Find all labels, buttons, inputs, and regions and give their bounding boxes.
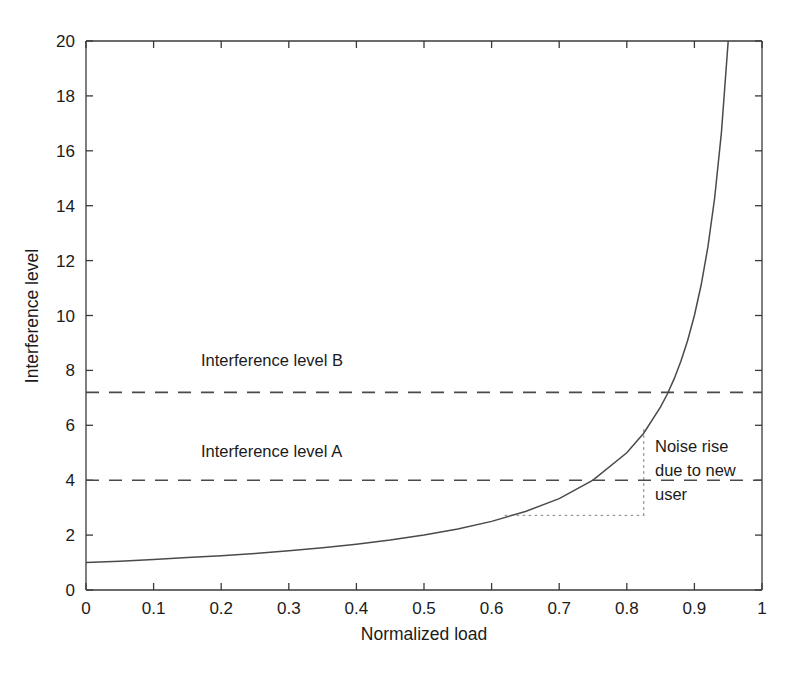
interference-curve (86, 41, 728, 563)
x-tick-label: 0.8 (615, 599, 639, 618)
x-tick-label: 0.9 (683, 599, 707, 618)
axes-frame (86, 41, 762, 590)
noise-rise-line-1: Noise rise (655, 437, 728, 455)
x-tick-label: 0.3 (277, 599, 301, 618)
x-axis-ticks (86, 41, 762, 590)
figure-container: 02468101214161820 00.10.20.30.40.50.60.7… (0, 0, 793, 674)
y-tick-label: 6 (66, 416, 75, 435)
y-tick-label: 18 (56, 87, 75, 106)
x-tick-label: 0 (81, 599, 90, 618)
x-tick-label: 1 (757, 599, 766, 618)
chart-canvas: 02468101214161820 00.10.20.30.40.50.60.7… (0, 0, 793, 674)
y-tick-label: 10 (56, 307, 75, 326)
noise-rise-line-2: due to new (655, 461, 736, 479)
y-tick-label: 4 (66, 471, 75, 490)
y-axis-ticks (86, 41, 762, 590)
x-tick-label: 0.2 (209, 599, 233, 618)
interference-level-a-label: Interference level A (201, 442, 342, 460)
noise-rise-line-3: user (655, 485, 688, 503)
x-tick-label: 0.4 (345, 599, 369, 618)
y-tick-label: 20 (56, 32, 75, 51)
y-tick-label: 16 (56, 142, 75, 161)
noise-rise-annotation: Noise rise due to new user (655, 437, 736, 503)
y-axis-tick-labels: 02468101214161820 (56, 32, 75, 600)
x-axis-tick-labels: 00.10.20.30.40.50.60.70.80.91 (81, 599, 766, 618)
interference-level-b-label: Interference level B (201, 351, 343, 369)
x-tick-label: 0.1 (142, 599, 166, 618)
x-axis-title: Normalized load (361, 624, 487, 644)
y-axis-title: Interference level (22, 249, 42, 383)
y-tick-label: 2 (66, 526, 75, 545)
y-tick-label: 12 (56, 252, 75, 271)
y-tick-label: 14 (56, 197, 75, 216)
y-tick-label: 8 (66, 361, 75, 380)
y-tick-label: 0 (66, 581, 75, 600)
x-tick-label: 0.7 (547, 599, 571, 618)
x-tick-label: 0.6 (480, 599, 504, 618)
x-tick-label: 0.5 (412, 599, 436, 618)
